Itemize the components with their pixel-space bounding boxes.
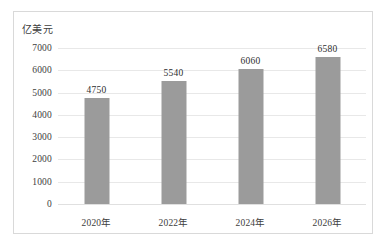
bar-value-label: 6580: [318, 44, 338, 54]
bar: [84, 98, 109, 204]
y-axis-tick-label: 6000: [32, 65, 52, 75]
bar-value-label: 6060: [241, 56, 261, 66]
bar-group: 65802026年: [289, 48, 366, 204]
chart-frame: 亿美元 01000200030004000500060007000 475020…: [13, 11, 373, 234]
x-axis-tick-label: 2020年: [82, 215, 112, 229]
gridline: [58, 204, 366, 205]
y-axis-unit-label: 亿美元: [22, 21, 53, 36]
bar: [161, 81, 186, 204]
x-axis-tick-label: 2022年: [159, 215, 189, 229]
y-axis-tick-label: 3000: [32, 132, 52, 142]
bar-group: 47502020年: [58, 48, 135, 204]
bar: [315, 57, 340, 204]
y-axis-tick-label: 7000: [32, 43, 52, 53]
bar-group: 60602024年: [212, 48, 289, 204]
bar: [238, 69, 263, 204]
y-axis-tick-label: 1000: [32, 177, 52, 187]
y-axis-tick-label: 2000: [32, 154, 52, 164]
bar-value-label: 5540: [164, 68, 184, 78]
bar-group: 55402022年: [135, 48, 212, 204]
x-axis-tick-label: 2026年: [313, 215, 343, 229]
y-axis-tick-label: 5000: [32, 88, 52, 98]
bar-value-label: 4750: [87, 85, 107, 95]
x-axis-tick-label: 2024年: [236, 215, 266, 229]
y-axis-tick-label: 4000: [32, 110, 52, 120]
plot-area: 01000200030004000500060007000 47502020年5…: [58, 48, 366, 204]
y-axis-tick-label: 0: [47, 199, 52, 209]
